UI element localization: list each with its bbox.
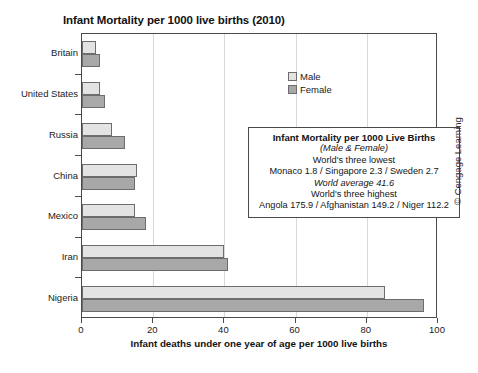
y-axis-label: China: [2, 170, 78, 181]
bar-male: [82, 245, 224, 258]
x-axis-tick-label: 60: [289, 324, 300, 335]
bar-female: [82, 177, 135, 190]
annotation-title: Infant Mortality per 1000 Live Births: [253, 132, 455, 143]
bar-male: [82, 204, 135, 217]
chart-title: Infant Mortality per 1000 live births (2…: [63, 14, 285, 26]
x-axis-tick: [223, 318, 224, 323]
x-axis-tick-label: 100: [429, 324, 445, 335]
annotation-lowest-header: World's three lowest: [253, 155, 455, 166]
bar-group: [82, 82, 436, 108]
y-axis-label: Mexico: [2, 210, 78, 221]
y-axis-label: Iran: [2, 251, 78, 262]
chart-legend: Male Female: [288, 70, 332, 96]
x-axis-tick-label: 0: [78, 324, 83, 335]
legend-item-male: Male: [288, 70, 332, 82]
legend-swatch-female-icon: [288, 85, 297, 94]
annotation-box: Infant Mortality per 1000 Live Births (M…: [248, 127, 460, 218]
x-axis-tick: [295, 318, 296, 323]
legend-item-female: Female: [288, 83, 332, 95]
x-axis-tick: [152, 318, 153, 323]
x-axis-ticks: 020406080100: [81, 318, 437, 338]
annotation-highest-header: World's three highest: [253, 189, 455, 200]
y-axis-label: Russia: [2, 129, 78, 140]
bar-male: [82, 164, 137, 177]
bar-male: [82, 82, 100, 95]
annotation-world-average: World average 41.6: [253, 178, 455, 189]
bar-group: [82, 41, 436, 67]
x-axis-tick-label: 40: [218, 324, 229, 335]
x-axis-tick-label: 20: [147, 324, 158, 335]
y-axis-labels: BritainUnited StatesRussiaChinaMexicoIra…: [0, 33, 78, 318]
legend-label-female: Female: [300, 84, 332, 95]
annotation-subtitle: (Male & Female): [253, 143, 455, 154]
bar-female: [82, 136, 125, 149]
annotation-highest-values: Angola 175.9 / Afghanistan 149.2 / Niger…: [253, 200, 455, 211]
bar-male: [82, 41, 96, 54]
legend-label-male: Male: [300, 71, 321, 82]
bar-female: [82, 54, 100, 67]
y-axis-label: Britain: [2, 47, 78, 58]
x-axis-tick-label: 80: [361, 324, 372, 335]
copyright-credit: © Cengage Learning: [452, 117, 463, 205]
x-axis-title: Infant deaths under one year of age per …: [81, 338, 437, 349]
bar-female: [82, 217, 146, 230]
bar-group: [82, 245, 436, 271]
plot-area: Male Female Infant Mortality per 1000 Li…: [81, 33, 437, 318]
y-axis-label: Nigeria: [2, 292, 78, 303]
x-axis-tick: [437, 318, 438, 323]
bar-male: [82, 123, 112, 136]
bar-group: [82, 286, 436, 312]
x-axis-tick: [366, 318, 367, 323]
x-axis-tick: [81, 318, 82, 323]
bar-female: [82, 95, 105, 108]
bar-male: [82, 286, 385, 299]
bar-female: [82, 299, 424, 312]
chart-figure: Infant Mortality per 1000 live births (2…: [0, 0, 478, 373]
legend-swatch-male-icon: [288, 72, 297, 81]
bar-female: [82, 258, 228, 271]
annotation-lowest-values: Monaco 1.8 / Singapore 2.3 / Sweden 2.7: [253, 166, 455, 177]
y-axis-label: United States: [2, 88, 78, 99]
